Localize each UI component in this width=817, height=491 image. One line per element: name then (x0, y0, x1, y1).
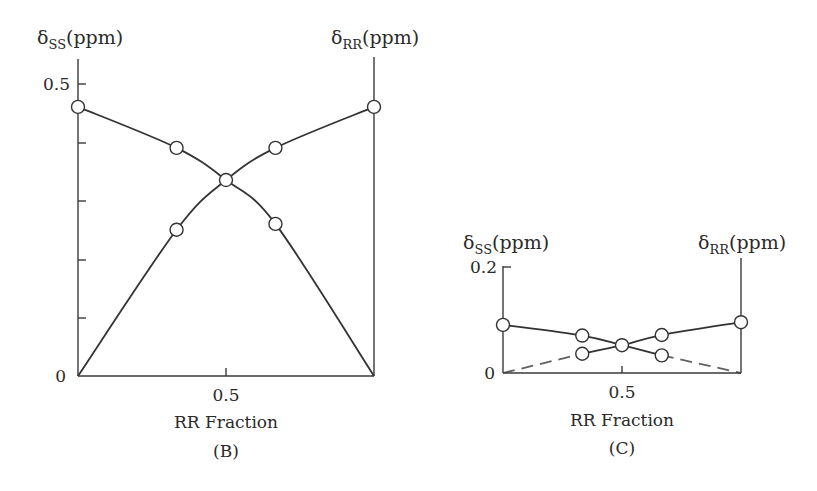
data-point-marker (576, 329, 589, 342)
data-markers (72, 100, 381, 236)
chart-panel-c: 0.2 0 0.5 RR Fraction (C) δSS(ppm) δRR(p… (463, 231, 786, 458)
y-ticks (78, 84, 86, 318)
data-point-marker (655, 329, 668, 342)
data-point-marker (497, 318, 510, 331)
chart-panel-b: 0.5 0 0.5 RR Fraction (B) δSS(ppm) δRR(p… (37, 26, 419, 461)
left-y-axis-label: δSS(ppm) (37, 26, 123, 52)
data-point-marker (576, 347, 589, 360)
series-line-delta-ss (78, 107, 374, 376)
data-point-marker (616, 339, 629, 352)
left-y-axis-label: δSS(ppm) (463, 231, 549, 257)
data-point-marker (735, 316, 748, 329)
series-line-delta-ss-lower (662, 355, 741, 373)
panel-label: (C) (609, 438, 635, 458)
right-y-axis-label: δRR(ppm) (698, 231, 786, 257)
x-tick-label: 0.5 (212, 385, 239, 405)
panel-label: (B) (213, 441, 239, 461)
data-point-marker (72, 100, 85, 113)
x-axis-label: RR Fraction (570, 410, 674, 430)
right-y-axis-label: δRR(ppm) (331, 26, 419, 52)
data-point-marker (170, 141, 183, 154)
series-line-delta-rr-lower (503, 354, 582, 373)
y-tick-label-top: 0.5 (43, 74, 70, 94)
data-point-marker (170, 223, 183, 236)
data-point-marker (220, 174, 233, 187)
y-tick-label-zero: 0 (55, 366, 66, 386)
series-line-delta-rr (78, 107, 374, 376)
x-axis-label: RR Fraction (174, 412, 278, 432)
data-point-marker (269, 217, 282, 230)
y-tick-label-zero: 0 (484, 363, 495, 383)
data-point-marker (269, 141, 282, 154)
data-point-marker (655, 349, 668, 362)
figure: 0.5 0 0.5 RR Fraction (B) δSS(ppm) δRR(p… (0, 0, 817, 491)
x-tick-label: 0.5 (608, 382, 635, 402)
data-point-marker (368, 100, 381, 113)
y-tick-label-top: 0.2 (470, 257, 497, 277)
data-markers (497, 316, 748, 362)
